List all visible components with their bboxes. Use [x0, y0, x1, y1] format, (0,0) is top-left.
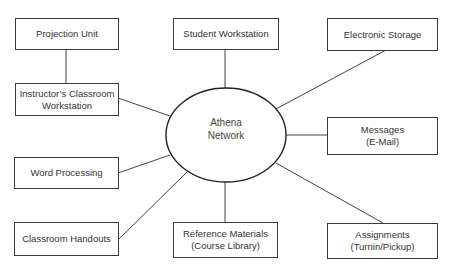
node-messages: Messages (E-Mail) — [327, 117, 438, 155]
node-label: Messages — [361, 124, 404, 136]
node-electronic-storage: Electronic Storage — [327, 18, 438, 51]
node-label: Projection Unit — [36, 28, 98, 40]
edge-wordproc-hub — [118, 155, 170, 173]
node-label: Word Processing — [30, 167, 102, 179]
node-label-2: Workstation — [42, 100, 92, 112]
node-label: Student Workstation — [183, 28, 268, 40]
hub-label: Athena Network — [166, 116, 286, 142]
node-word-processing: Word Processing — [14, 157, 119, 189]
node-reference-materials: Reference Materials (Course Library) — [173, 222, 278, 258]
node-classroom-handouts: Classroom Handouts — [14, 222, 119, 256]
node-instructor-workstation: Instructor’s Classroom Workstation — [15, 83, 119, 116]
node-label: Reference Materials — [183, 228, 268, 240]
node-projection-unit: Projection Unit — [15, 18, 119, 50]
node-label: Instructor’s Classroom — [20, 88, 115, 100]
node-label-2: (Course Library) — [191, 240, 260, 252]
edge-assignments-hub — [276, 163, 383, 223]
node-student-workstation: Student Workstation — [173, 18, 279, 50]
hub-label-line1: Athena — [166, 116, 286, 129]
node-label: Classroom Handouts — [22, 233, 111, 245]
edge-instructor-hub — [118, 98, 170, 116]
hub-label-line2: Network — [166, 129, 286, 142]
node-label: Assignments — [355, 229, 409, 241]
node-assignments: Assignments (Turnin/Pickup) — [327, 223, 438, 259]
node-label: Electronic Storage — [344, 29, 422, 41]
edge-storage-hub — [276, 50, 386, 109]
node-label-2: (E-Mail) — [366, 136, 399, 148]
node-label-2: (Turnin/Pickup) — [350, 241, 414, 253]
